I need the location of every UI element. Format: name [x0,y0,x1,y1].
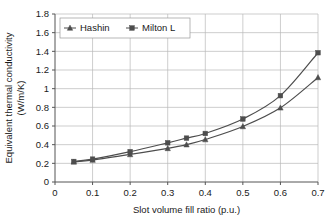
y-tick-label: 1 [44,83,49,94]
y-tick-label: 1.8 [36,8,49,19]
y-tick-label: 1.4 [36,46,49,57]
data-point-marker-square [241,117,246,122]
x-tick-label: 0.3 [161,187,174,198]
data-point-marker-square [90,157,95,162]
x-tick-label: 0 [52,187,57,198]
y-tick-label: 0.2 [36,158,49,169]
x-tick-label: 0.4 [199,187,212,198]
y-tick-label: 0.4 [36,139,49,150]
data-point-marker-square [184,136,189,141]
data-point-marker-square [165,141,170,146]
data-point-marker-square [316,50,321,55]
data-point-marker-square [71,159,76,164]
x-axis-title: Slot volume fill ratio (p.u.) [133,204,240,215]
y-axis-title-line2: (W/m/K) [15,81,26,116]
chart-figure: 00.10.20.30.40.50.60.7 00.20.40.60.811.2… [0,0,328,222]
data-point-marker-square [130,26,135,31]
x-tick-label: 0.6 [274,187,287,198]
x-tick-label: 0.5 [236,187,249,198]
data-point-marker-square [203,131,208,136]
data-point-marker-square [128,149,133,154]
legend-label: Hashin [80,22,110,33]
x-tick-label: 0.2 [124,187,137,198]
y-tick-label: 0.6 [36,120,49,131]
legend-label: Milton L [142,22,175,33]
data-point-marker-square [278,93,283,98]
x-tick-label: 0.1 [86,187,99,198]
y-tick-label: 1.2 [36,64,49,75]
y-tick-label: 1.6 [36,27,49,38]
y-axis-title-line1: Equivalent thermal conductivity [3,32,14,163]
line-chart: 00.10.20.30.40.50.60.7 00.20.40.60.811.2… [0,0,328,222]
y-tick-label: 0 [44,176,49,187]
x-tick-label: 0.7 [311,187,324,198]
y-tick-label: 0.8 [36,102,49,113]
chart-legend: HashinMilton L [60,18,190,38]
